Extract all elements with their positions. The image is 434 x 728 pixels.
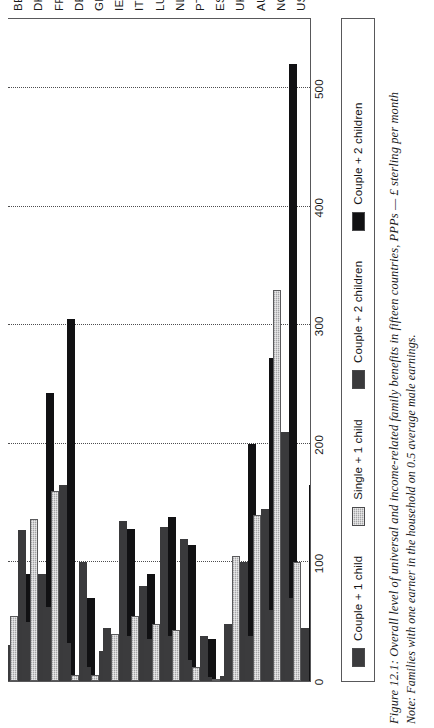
bar	[91, 675, 99, 681]
category-label-fr: FR	[53, 0, 65, 11]
category-label-es: ES	[214, 0, 226, 11]
bar	[111, 634, 119, 681]
bar	[293, 562, 301, 681]
category-label-au: AU	[255, 0, 267, 11]
bar	[265, 610, 273, 681]
bar	[22, 622, 30, 681]
axis-tick-label: 0	[313, 679, 325, 686]
bar	[212, 679, 220, 681]
category-label-it: IT	[133, 0, 145, 11]
bar	[285, 598, 293, 681]
bar	[164, 636, 172, 681]
chart-legend: Couple + 1 childSingle + 1 childCouple +…	[341, 18, 375, 682]
bar	[43, 608, 51, 682]
category-label-nl: NL	[174, 0, 186, 11]
category-label-be: BE	[12, 0, 24, 11]
category-label-ie: IE	[113, 0, 125, 11]
bar	[232, 557, 240, 682]
figure-rotated-container: 0100200300400500 BEDKFRDEGRIEITLUNLPTESU…	[0, 0, 434, 728]
axis-tick-label: 400	[313, 198, 325, 218]
bar	[204, 677, 212, 681]
plot-frame	[8, 18, 311, 682]
axis-tick-label: 100	[313, 554, 325, 574]
bar	[301, 628, 309, 681]
plot-canvas	[8, 19, 310, 681]
bar	[30, 519, 38, 681]
category-label-pt: PT	[194, 0, 206, 11]
category-label-de: DE	[73, 0, 85, 11]
category-label-gr: GR	[93, 0, 105, 11]
axis-tick-label: 500	[313, 79, 325, 99]
legend-swatch-icon	[352, 370, 365, 389]
bar	[144, 640, 152, 682]
bar	[309, 485, 310, 681]
legend-swatch-icon	[352, 212, 365, 231]
legend-label: Couple + 2 children	[352, 261, 364, 363]
legend-item-couple-2-children-a: Couple + 2 children	[352, 261, 365, 389]
figure-note: Note: Families with one earner in the ho…	[403, 4, 419, 724]
bar	[123, 636, 131, 681]
legend-item-single-1-child: Single + 1 child	[352, 419, 365, 526]
bar	[103, 628, 111, 681]
bar	[152, 624, 160, 681]
bar	[273, 290, 281, 681]
category-label-uk: UK	[234, 0, 246, 11]
legend-label: Single + 1 child	[352, 419, 364, 500]
bar	[184, 660, 192, 681]
legend-item-couple-2-children-b: Couple + 2 children	[352, 103, 365, 231]
axis-tick-label: 200	[313, 435, 325, 455]
country-bar-group	[285, 19, 310, 681]
bar	[131, 616, 139, 681]
bar	[224, 624, 232, 681]
category-axis-labels: BEDKFRDEGRIEITLUNLPTESUKAUNOUS	[8, 0, 311, 16]
category-label-no: NO	[275, 0, 287, 11]
bar	[10, 616, 18, 681]
bar	[172, 630, 180, 681]
chart-area: 0100200300400500 BEDKFRDEGRIEITLUNLPTESU…	[0, 0, 330, 728]
category-label-dk: DK	[32, 0, 44, 11]
legend-label: Couple + 2 children	[352, 103, 364, 205]
bar	[192, 667, 200, 681]
legend-swatch-icon	[352, 507, 365, 526]
bar	[253, 515, 261, 681]
figure-caption-block: Figure 12.1: Overall level of universal …	[386, 4, 419, 724]
category-label-lu: LU	[154, 0, 166, 11]
bar	[245, 636, 253, 681]
figure-caption: Figure 12.1: Overall level of universal …	[386, 4, 403, 724]
value-axis-ticks: 0100200300400500	[311, 18, 331, 682]
legend-swatch-icon	[352, 648, 365, 667]
category-label-us: US	[295, 0, 307, 11]
bar	[71, 675, 79, 681]
bar	[83, 667, 91, 681]
legend-item-couple-1-child: Couple + 1 child	[352, 556, 365, 667]
legend-label: Couple + 1 child	[352, 556, 364, 641]
axis-tick-label: 300	[313, 316, 325, 336]
bar	[51, 491, 59, 681]
bar	[63, 643, 71, 681]
